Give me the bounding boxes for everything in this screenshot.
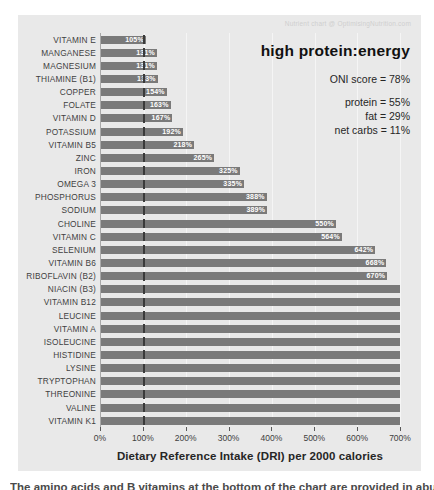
- bar-value-label: 105%: [125, 36, 144, 44]
- x-tick-mark: [229, 427, 230, 431]
- bar-row: 550%: [101, 217, 400, 230]
- reference-mark-100pct: [143, 272, 145, 281]
- category-label: VALINE: [18, 401, 96, 414]
- x-tick-mark: [357, 427, 358, 431]
- macro-line: protein = 55%: [345, 95, 410, 109]
- oni-score: ONI score = 78%: [330, 73, 410, 85]
- bar: 218%: [101, 141, 194, 149]
- x-tick-mark: [100, 427, 101, 431]
- x-tick-label: 0%: [80, 433, 120, 443]
- x-axis: 0%100%200%300%400%500%600%700%: [100, 427, 400, 449]
- reference-mark-100pct: [143, 88, 145, 97]
- x-tick-label: 300%: [209, 433, 249, 443]
- category-label: VITAMIN A: [18, 322, 96, 335]
- x-tick-label: 600%: [337, 433, 377, 443]
- bar: [101, 417, 400, 425]
- annotation-panel: high protein:energy ONI score = 78% prot…: [261, 42, 410, 137]
- category-label: ZINC: [18, 151, 96, 164]
- bar-row: [101, 414, 400, 427]
- bar-row: 388%: [101, 191, 400, 204]
- reference-mark-100pct: [143, 377, 145, 386]
- category-label: TRYPTOPHAN: [18, 375, 96, 388]
- category-label: VITAMIN E: [18, 33, 96, 46]
- reference-mark-100pct: [143, 193, 145, 202]
- reference-mark-100pct: [143, 127, 145, 136]
- cutoff-caption: The amino acids and B vitamins at the bo…: [10, 481, 434, 490]
- bar-row: 218%: [101, 138, 400, 151]
- x-tick-label: 400%: [251, 433, 291, 443]
- bar-value-label: 218%: [173, 141, 192, 149]
- category-label: MAGNESIUM: [18, 59, 96, 72]
- reference-mark-100pct: [143, 219, 145, 228]
- bar-value-label: 325%: [219, 167, 238, 175]
- reference-mark-100pct: [143, 48, 145, 57]
- bar: [101, 325, 400, 333]
- bar: 133%: [101, 75, 158, 83]
- bar-value-label: 163%: [150, 101, 169, 109]
- reference-mark-100pct: [143, 298, 145, 307]
- category-labels: VITAMIN EMANGANESEMAGNESIUMTHIAMINE (B1)…: [18, 33, 96, 427]
- reference-mark-100pct: [143, 350, 145, 359]
- x-tick-label: 700%: [380, 433, 420, 443]
- bar-row: [101, 309, 400, 322]
- bar: [101, 390, 400, 398]
- bar: 163%: [101, 101, 171, 109]
- reference-mark-100pct: [143, 206, 145, 215]
- bar-value-label: 670%: [366, 272, 385, 280]
- bar: [101, 404, 400, 412]
- bar: [101, 298, 400, 306]
- bar-row: 325%: [101, 164, 400, 177]
- bar: 167%: [101, 114, 172, 122]
- macro-line: net carbs = 11%: [335, 123, 410, 137]
- category-label: SELENIUM: [18, 243, 96, 256]
- chart-title: high protein:energy: [261, 42, 410, 60]
- category-label: NIACIN (B3): [18, 283, 96, 296]
- bar-row: [101, 335, 400, 348]
- bar: [101, 285, 400, 293]
- reference-mark-100pct: [143, 153, 145, 162]
- reference-mark-100pct: [143, 416, 145, 425]
- bar: 325%: [101, 167, 240, 175]
- bar: [101, 351, 400, 359]
- bar-value-label: 133%: [137, 75, 156, 83]
- bar-value-label: 335%: [223, 180, 242, 188]
- bar: 131%: [101, 49, 157, 57]
- reference-mark-100pct: [143, 61, 145, 70]
- bar-value-label: 668%: [366, 259, 385, 267]
- bar-value-label: 154%: [146, 88, 165, 96]
- category-label: ISOLEUCINE: [18, 335, 96, 348]
- category-label: SODIUM: [18, 204, 96, 217]
- macro-list: protein = 55%fat = 29%net carbs = 11%: [335, 95, 410, 137]
- reference-mark-100pct: [143, 311, 145, 320]
- x-tick-label: 100%: [123, 433, 163, 443]
- bar: 550%: [101, 220, 336, 228]
- reference-mark-100pct: [143, 140, 145, 149]
- category-label: THIAMINE (B1): [18, 72, 96, 85]
- reference-mark-100pct: [143, 324, 145, 333]
- x-tick-mark: [143, 427, 144, 431]
- reference-mark-100pct: [143, 101, 145, 110]
- bar: [101, 312, 400, 320]
- reference-mark-100pct: [143, 285, 145, 294]
- bar-row: [101, 401, 400, 414]
- category-label: POTASSIUM: [18, 125, 96, 138]
- category-label: LYSINE: [18, 362, 96, 375]
- bar-value-label: 131%: [136, 49, 155, 57]
- x-tick-mark: [400, 427, 401, 431]
- bar-row: 670%: [101, 270, 400, 283]
- category-label: VITAMIN C: [18, 230, 96, 243]
- bar: [101, 377, 400, 385]
- bar: 388%: [101, 193, 267, 201]
- bar-row: [101, 348, 400, 361]
- category-label: PHOSPHORUS: [18, 191, 96, 204]
- x-tick-mark: [314, 427, 315, 431]
- screenshot-root: Nutrient chart @ OptimisingNutrition.com…: [0, 0, 434, 490]
- category-label: VITAMIN B12: [18, 296, 96, 309]
- bar: [101, 364, 400, 372]
- category-label: FOLATE: [18, 99, 96, 112]
- watermark-text: Nutrient chart @ OptimisingNutrition.com: [285, 20, 411, 27]
- category-label: VITAMIN B5: [18, 138, 96, 151]
- reference-mark-100pct: [143, 258, 145, 267]
- reference-mark-100pct: [143, 403, 145, 412]
- bar-value-label: 550%: [315, 220, 334, 228]
